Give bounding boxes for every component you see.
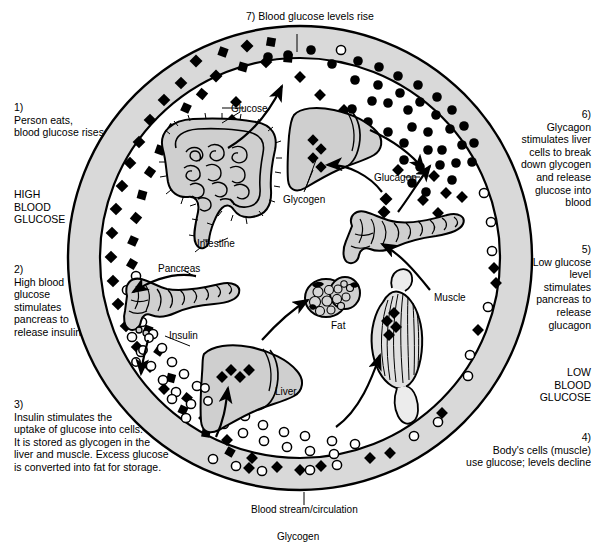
top-title-label: 7) Blood glucose levels rise bbox=[246, 10, 374, 23]
step-2-annotation: 2) High blood glucose stimulates pancrea… bbox=[14, 263, 114, 339]
step-3-annotation: 3) Insulin stimulates the uptake of gluc… bbox=[14, 398, 199, 474]
step-4-annotation: 4) Body's cells (muscle) use glucose; le… bbox=[421, 431, 591, 469]
step-6-annotation: 6) Glycagon stimulates liver cells to br… bbox=[491, 108, 591, 209]
glucagon-molecule-label: Glucagon bbox=[374, 172, 417, 184]
glucose-molecule-label: Glucose bbox=[231, 103, 268, 115]
step-1-annotation: 1) Person eats, blood glucose rises bbox=[14, 101, 134, 139]
step-5-annotation: 5) Low glucose level stimulates pancreas… bbox=[501, 243, 591, 331]
low-blood-glucose-label: LOW BLOOD GLUCOSE bbox=[501, 366, 591, 404]
intestine-label: Intestine bbox=[197, 238, 235, 250]
diagram-canvas: 7) Blood glucose levels rise 1) Person e… bbox=[0, 0, 601, 552]
glycogen-legend-caption: Glycogen bbox=[277, 531, 319, 543]
glycogen-liver-label: Glycogen bbox=[283, 194, 325, 206]
pancreas-label: Pancreas bbox=[158, 263, 200, 275]
fat-label: Fat bbox=[331, 320, 345, 332]
blood-stream-caption: Blood stream/circulation bbox=[251, 504, 358, 516]
liver-label: Liver bbox=[275, 386, 297, 398]
insulin-molecule-label: Insulin bbox=[169, 330, 198, 342]
muscle-label: Muscle bbox=[434, 292, 466, 304]
high-blood-glucose-label: HIGH BLOOD GLUCOSE bbox=[14, 188, 104, 226]
